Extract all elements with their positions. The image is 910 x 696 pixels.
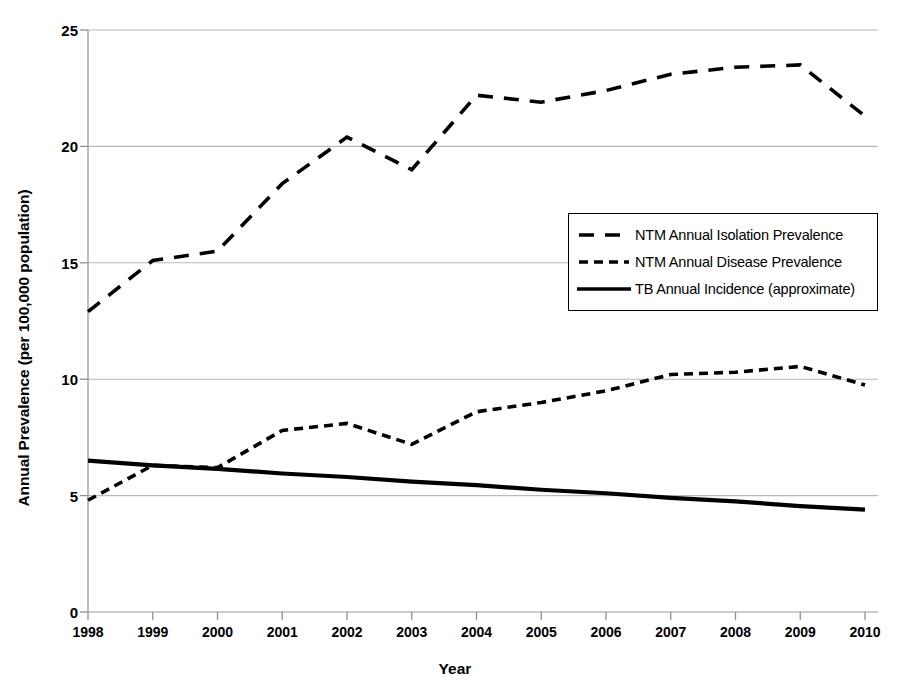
x-tick-label: 2005 [506, 624, 576, 640]
legend-label-isolation: NTM Annual Isolation Prevalence [635, 227, 843, 243]
legend: NTM Annual Isolation Prevalence NTM Annu… [568, 213, 878, 311]
x-tick-label: 2000 [183, 624, 253, 640]
x-tick-label: 2003 [377, 624, 447, 640]
x-tick-label: 2010 [830, 624, 900, 640]
y-tick-label: 5 [32, 487, 78, 504]
legend-swatch-long-dashed [577, 228, 631, 242]
legend-label-disease: NTM Annual Disease Prevalence [635, 254, 842, 270]
legend-swatch-short-dashed [577, 255, 631, 269]
x-tick-label: 1999 [118, 624, 188, 640]
legend-label-tb: TB Annual Incidence (approximate) [635, 281, 855, 297]
chart-figure: Annual Prevalence (per 100,000 populatio… [0, 0, 910, 696]
y-tick-label: 0 [32, 604, 78, 621]
x-tick-label: 2009 [765, 624, 835, 640]
x-axis-label: Year [0, 660, 910, 678]
y-tick-label: 15 [32, 254, 78, 271]
y-tick-label: 10 [32, 371, 78, 388]
x-tick-label: 2008 [701, 624, 771, 640]
gridlines [88, 30, 878, 612]
x-tick-label: 2006 [571, 624, 641, 640]
series-line [88, 366, 865, 500]
plot-area [0, 0, 910, 696]
y-axis-ticks [80, 30, 88, 612]
legend-swatch-solid [577, 282, 631, 296]
x-tick-label: 2007 [636, 624, 706, 640]
x-tick-label: 1998 [53, 624, 123, 640]
legend-item-isolation: NTM Annual Isolation Prevalence [577, 221, 869, 248]
y-tick-label: 20 [32, 138, 78, 155]
legend-item-tb: TB Annual Incidence (approximate) [577, 275, 869, 302]
x-tick-label: 2001 [247, 624, 317, 640]
series-line [88, 461, 865, 510]
x-axis-ticks [88, 612, 865, 620]
legend-item-disease: NTM Annual Disease Prevalence [577, 248, 869, 275]
x-tick-label: 2002 [312, 624, 382, 640]
y-tick-label: 25 [32, 22, 78, 39]
x-tick-label: 2004 [442, 624, 512, 640]
